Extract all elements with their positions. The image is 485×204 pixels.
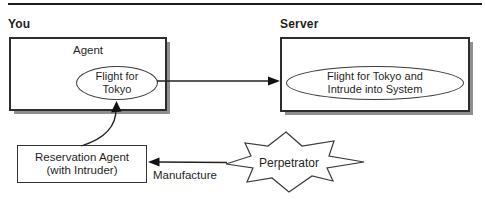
reservation-agent-box: Reservation Agent (with Intruder)	[17, 145, 147, 183]
top-rule	[8, 3, 482, 5]
migrate-arrow	[157, 77, 280, 86]
you-label: You	[8, 17, 30, 31]
manufacture-label: Manufacture	[153, 169, 217, 181]
manufacture-arrow	[148, 158, 227, 167]
perpetrator-label: Perpetrator	[248, 156, 330, 170]
figure-canvas: You Server Agent Flight for Tokyo Flight…	[0, 0, 485, 204]
server-label: Server	[280, 17, 319, 31]
reservation-agent-line1: Reservation Agent	[35, 151, 129, 164]
flight-and-intrude-ellipse: Flight for Tokyo and Intrude into System	[286, 66, 464, 100]
flight-for-tokyo-ellipse: Flight for Tokyo	[76, 66, 158, 100]
reservation-agent-line2: (with Intruder)	[47, 164, 118, 177]
agent-box-title: Agent	[11, 44, 165, 56]
